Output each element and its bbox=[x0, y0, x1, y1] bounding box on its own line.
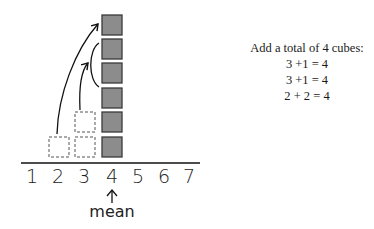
dashed-cube-position-3-lower bbox=[75, 137, 95, 157]
axis-label-1: 1 bbox=[22, 166, 42, 186]
dashed-cube-position-2 bbox=[49, 137, 69, 157]
solid-cube bbox=[102, 112, 122, 132]
axis-label-6: 6 bbox=[154, 166, 174, 186]
solid-cube bbox=[102, 15, 122, 35]
solid-cube-stack bbox=[102, 15, 122, 157]
dashed-cubes bbox=[49, 112, 95, 157]
diagram-graphics bbox=[0, 0, 220, 229]
equation-line-2: 3 +1 = 4 bbox=[240, 72, 374, 88]
axis-label-2: 2 bbox=[48, 166, 68, 186]
axis-label-5: 5 bbox=[128, 166, 148, 186]
axis-label-4: 4 bbox=[102, 166, 122, 186]
solid-cube bbox=[102, 137, 122, 157]
cube-mean-diagram: 1 2 3 4 5 6 7 mean bbox=[0, 0, 220, 229]
axis-label-7: 7 bbox=[179, 166, 199, 186]
explanation-notes: Add a total of 4 cubes: 3 +1 = 4 3 +1 = … bbox=[240, 40, 374, 104]
bracket-grouping bbox=[91, 43, 99, 87]
solid-cube bbox=[102, 39, 122, 59]
short-curved-arrow bbox=[80, 63, 88, 110]
solid-cube bbox=[102, 63, 122, 83]
notes-heading: Add a total of 4 cubes: bbox=[240, 40, 374, 56]
axis-label-3: 3 bbox=[74, 166, 94, 186]
dashed-cube-position-3-upper bbox=[75, 112, 95, 132]
solid-cube bbox=[102, 88, 122, 108]
equation-line-1: 3 +1 = 4 bbox=[240, 56, 374, 72]
long-curved-arrow bbox=[57, 24, 98, 134]
mean-label: mean bbox=[82, 203, 142, 221]
equation-line-3: 2 + 2 = 4 bbox=[240, 88, 374, 104]
